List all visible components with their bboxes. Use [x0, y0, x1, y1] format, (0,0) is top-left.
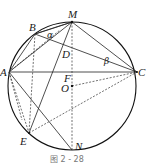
- segment-bm-a: [35, 22, 72, 34]
- segment-ae: [9, 72, 29, 133]
- label-m: M: [67, 8, 78, 20]
- label-b: B: [29, 21, 36, 33]
- label-e: E: [19, 135, 27, 147]
- label-beta: β: [103, 56, 109, 66]
- label-n: N: [74, 140, 83, 152]
- segment-oc: [72, 72, 137, 86]
- label-a: A: [0, 66, 7, 78]
- segment-ab: [9, 34, 35, 72]
- label-d: D: [61, 48, 70, 60]
- label-o: O: [61, 82, 69, 94]
- segment-ec: [29, 72, 137, 133]
- geometry-diagram: M B A C D F O E N α β 图 2 - 28: [0, 0, 146, 164]
- point-m-dot: [71, 21, 73, 23]
- segment-be: [29, 34, 35, 133]
- point-e-dot: [28, 132, 30, 134]
- label-c: C: [138, 66, 146, 78]
- figure-caption: 图 2 - 28: [50, 155, 84, 164]
- label-alpha: α: [47, 30, 53, 40]
- point-o-dot: [71, 85, 73, 87]
- segment-ae2: [9, 72, 22, 120]
